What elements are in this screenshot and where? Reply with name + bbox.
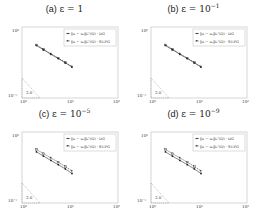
panel-d: (d) ε = 10−92.0‖u − uₕ‖L²(Ω) · DG‖u − uₕ… [129, 105, 258, 210]
x-tick-1: 10¹ [67, 99, 74, 104]
y-tick-top: 10⁰ [141, 133, 148, 138]
x-tick-1: 10¹ [196, 204, 203, 209]
y-tick-bottom: 10⁻⁵ [8, 198, 18, 203]
legend-supg-label: ‖u − uₕ‖L²(Ω) · SUPG [71, 145, 110, 149]
x-tick-2: 10² [242, 99, 249, 104]
slope-label: 2.0 [155, 90, 162, 95]
y-tick-bottom: 10⁻⁵ [137, 198, 147, 203]
y-tick-top: 10⁰ [12, 133, 19, 138]
x-tick-1: 10¹ [67, 204, 74, 209]
slope-triangle [151, 78, 169, 98]
y-tick-bottom: 10⁻⁵ [8, 93, 18, 98]
y-tick-top: 10⁰ [141, 28, 148, 33]
series-dg-line [36, 46, 72, 68]
slope-label: 2.0 [26, 90, 33, 95]
series-supg-line [165, 45, 201, 67]
series-supg-line [36, 45, 72, 67]
x-tick-0: 10⁰ [149, 99, 156, 104]
legend-dg-label: ‖u − uₕ‖L²(Ω) · DG [71, 137, 105, 141]
series-dg-marker [165, 151, 167, 153]
x-tick-2: 10² [113, 99, 120, 104]
series-dg-marker [179, 160, 181, 162]
legend-supg-label: ‖u − uₕ‖L²(Ω) · SUPG [200, 145, 239, 149]
series-dg-marker [57, 164, 59, 166]
y-tick-bottom: 10⁻⁵ [137, 93, 147, 98]
series-dg-marker [71, 173, 73, 175]
loglog-plot: 2.0‖u − uₕ‖L²(Ω) · DG‖u − uₕ‖L²(Ω) · SUP… [0, 105, 129, 210]
loglog-plot: 2.0‖u − uₕ‖L²(Ω) · DG‖u − uₕ‖L²(Ω) · SUP… [129, 0, 258, 105]
slope-triangle [22, 78, 40, 98]
series-dg-line [165, 46, 201, 68]
panel-a: (a) ε = 12.0‖u − uₕ‖L²(Ω) · DG‖u − uₕ‖L²… [0, 0, 129, 105]
series-supg-line [165, 149, 201, 171]
legend-dg-label: ‖u − uₕ‖L²(Ω) · DG [200, 137, 234, 141]
slope-triangle [151, 183, 169, 203]
series-dg-line [165, 152, 201, 174]
series-dg-marker [50, 160, 52, 162]
x-tick-1: 10¹ [196, 99, 203, 104]
legend-dg-marker [196, 33, 197, 34]
slope-label: 2.0 [155, 195, 162, 200]
x-tick-2: 10² [242, 204, 249, 209]
loglog-plot: 2.0‖u − uₕ‖L²(Ω) · DG‖u − uₕ‖L²(Ω) · SUP… [0, 0, 129, 105]
legend-dg-label: ‖u − uₕ‖L²(Ω) · DG [71, 32, 105, 36]
series-dg-marker [193, 168, 195, 170]
series-dg-marker [36, 151, 38, 153]
x-tick-0: 10⁰ [20, 99, 27, 104]
legend-dg-label: ‖u − uₕ‖L²(Ω) · DG [200, 32, 234, 36]
series-dg-marker [64, 168, 66, 170]
loglog-plot: 2.0‖u − uₕ‖L²(Ω) · DG‖u − uₕ‖L²(Ω) · SUP… [129, 105, 258, 210]
slope-label: 2.0 [26, 195, 33, 200]
series-dg-line [36, 152, 72, 174]
legend-supg-label: ‖u − uₕ‖L²(Ω) · SUPG [200, 40, 239, 44]
panel-c: (c) ε = 10−52.0‖u − uₕ‖L²(Ω) · DG‖u − uₕ… [0, 105, 129, 210]
legend-dg-marker [67, 33, 68, 34]
legend-dg-marker [196, 138, 197, 139]
series-supg-line [36, 149, 72, 171]
series-dg-marker [186, 164, 188, 166]
series-dg-marker [172, 155, 174, 157]
panel-b: (b) ε = 10−12.0‖u − uₕ‖L²(Ω) · DG‖u − uₕ… [129, 0, 258, 105]
slope-triangle [22, 183, 40, 203]
x-tick-0: 10⁰ [149, 204, 156, 209]
y-tick-top: 10⁰ [12, 28, 19, 33]
series-dg-marker [200, 173, 202, 175]
series-dg-marker [43, 155, 45, 157]
legend-dg-marker [67, 138, 68, 139]
x-tick-0: 10⁰ [20, 204, 27, 209]
x-tick-2: 10² [113, 204, 120, 209]
legend-supg-label: ‖u − uₕ‖L²(Ω) · SUPG [71, 40, 110, 44]
